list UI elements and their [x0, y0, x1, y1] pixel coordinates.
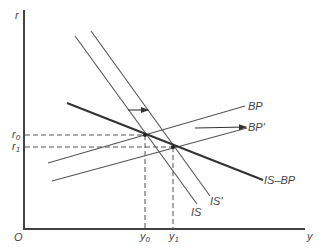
equilibrium-point-1: [171, 145, 175, 149]
is-prime-curve: [91, 31, 210, 196]
origin-label: O: [14, 231, 23, 243]
y0-label: y0: [139, 230, 151, 244]
is-label: IS: [191, 206, 202, 218]
is-curve: [75, 36, 197, 204]
bp-prime-label: BP': [248, 121, 266, 133]
r1-label: r1: [12, 140, 20, 154]
is-bp-label: IS–BP: [264, 174, 296, 186]
is-prime-label: IS': [210, 195, 223, 207]
y-axis-label: r: [15, 9, 20, 21]
is-bp-diagram: r y O r0 r1 y0 y1 IS IS' BP BP' IS–BP: [0, 0, 325, 248]
x-axis-label: y: [306, 230, 314, 242]
bp-shift-arrow: [195, 127, 246, 128]
equilibrium-point-0: [143, 133, 147, 137]
bp-label: BP: [248, 100, 263, 112]
y1-label: y1: [168, 230, 179, 244]
